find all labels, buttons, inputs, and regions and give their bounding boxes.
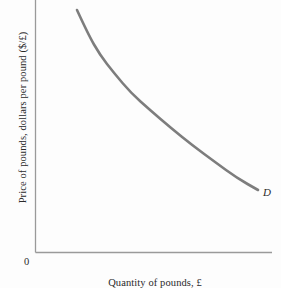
x-axis-label: Quantity of pounds, £: [35, 277, 275, 288]
demand-curve-path: [77, 10, 258, 190]
demand-curve-label: D: [263, 186, 271, 198]
origin-label: 0: [24, 256, 29, 267]
plot-area: [0, 0, 281, 288]
demand-curve-figure: Price of pounds, dollars per pound ($/£)…: [0, 0, 281, 288]
y-axis-label: Price of pounds, dollars per pound ($/£): [17, 18, 28, 218]
